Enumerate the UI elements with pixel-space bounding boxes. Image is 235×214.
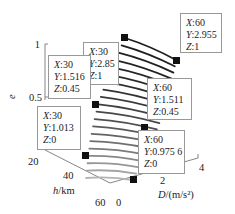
marker-60-2.955-1[interactable] — [173, 57, 180, 64]
x-tick-40: 40 — [63, 170, 74, 181]
y-tick-2: 2 — [160, 175, 165, 186]
datatip-60-2.955-1: X:60 Y:2.955 Z:1 — [180, 13, 222, 53]
x-axis: 20 40 60 h/km — [28, 150, 110, 208]
datatip-30-1.516-0.45: X:30 Y:1.516 Z:0.45 — [48, 55, 91, 99]
marker-60-0.9756-0[interactable] — [130, 176, 137, 183]
surface-stripe — [88, 163, 140, 167]
datatip-60-0.9756-0: X:60 Y:0.975 6 Z:0 — [138, 130, 185, 174]
y-tick-0: 0 — [116, 197, 121, 208]
z-axis-label: e — [6, 94, 17, 99]
z-tick-0-5: 0.5 — [29, 92, 42, 103]
x-tick-20: 20 — [28, 156, 39, 167]
marker-30-1.013-0[interactable] — [82, 152, 89, 159]
y-axis-label: D/(m/s²) — [157, 189, 194, 201]
x-axis-label: h/km — [53, 185, 75, 196]
z-axis: 1 0.5 e — [6, 39, 48, 103]
surface-stripe — [86, 177, 133, 180]
z-tick-1: 1 — [35, 39, 40, 50]
surface-stripe — [87, 170, 137, 173]
datatip-60-1.511-0.45: X:60 Y:1.511 Z:0.45 — [147, 78, 192, 120]
y-tick-4: 4 — [199, 162, 205, 173]
surface-stripe — [88, 156, 142, 161]
marker-30-2.85-1[interactable] — [121, 34, 128, 41]
marker-30-1.516-0.45[interactable] — [92, 101, 99, 108]
x-tick-60: 60 — [95, 197, 106, 208]
datatip-30-1.013-0: X:30 Y:1.013 Z:0 — [37, 106, 81, 150]
